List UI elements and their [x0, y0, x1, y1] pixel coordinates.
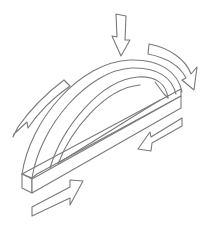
curved-arrow-left-icon: [13, 80, 70, 137]
arch-force-diagram: [0, 0, 209, 235]
down-arrow-icon: [112, 14, 130, 56]
